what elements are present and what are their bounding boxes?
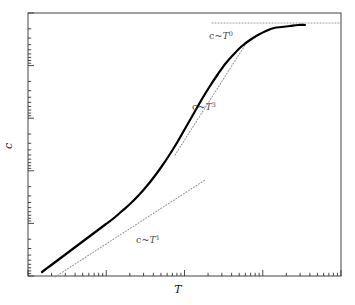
log-log-plot: c~T1 c~T3 c~T0 T c [0, 0, 355, 305]
plot-background [0, 0, 355, 305]
figure-root: c~T1 c~T3 c~T0 T c [0, 0, 355, 305]
y-axis-title: c [2, 143, 15, 149]
